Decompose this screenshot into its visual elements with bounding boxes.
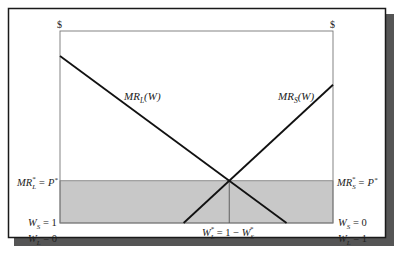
- labor-allocation-diagram: $ $ MRL(W) MRS(W) MRL* = P* MRS* = P* WS…: [0, 0, 400, 266]
- frame-shadow-bottom: [14, 238, 394, 246]
- left-axis-unit-label: $: [57, 19, 62, 30]
- frame-shadow-right: [386, 14, 394, 246]
- shaded-surplus-region: [60, 181, 333, 223]
- right-axis-unit-label: $: [330, 19, 335, 30]
